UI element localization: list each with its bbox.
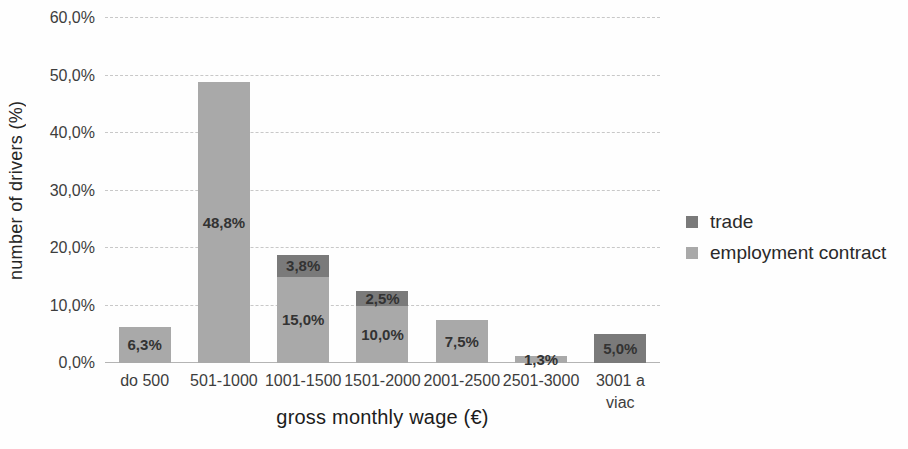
- x-tick-label: 2001-2500: [422, 370, 501, 392]
- bar-segment-employment: 6,3%: [119, 327, 171, 363]
- y-tick-label: 20,0%: [50, 240, 95, 256]
- y-axis-tick-labels: 0,0%10,0%20,0%30,0%40,0%50,0%60,0%: [0, 18, 95, 363]
- bar-segment-employment: 1,3%: [515, 356, 567, 363]
- legend-item: trade: [686, 212, 886, 231]
- x-tick-label: 1001-1500: [264, 370, 343, 392]
- bar-slot: 1,3%: [501, 18, 580, 363]
- legend-swatch-trade: [686, 216, 698, 228]
- bar-segment-trade: 5,0%: [594, 334, 646, 363]
- bar-slot: 10,0%2,5%: [343, 18, 422, 363]
- bar-value-label: 15,0%: [282, 312, 325, 327]
- bar-value-label: 5,0%: [603, 341, 637, 356]
- bar-slot: 7,5%: [422, 18, 501, 363]
- legend-item: employment contract: [686, 243, 886, 262]
- y-tick-label: 10,0%: [50, 298, 95, 314]
- y-tick-label: 40,0%: [50, 125, 95, 141]
- y-tick-label: 60,0%: [50, 10, 95, 26]
- bar-value-label: 10,0%: [361, 327, 404, 342]
- bar-segment-employment: 10,0%: [356, 306, 408, 364]
- y-tick-label: 50,0%: [50, 68, 95, 84]
- bar-segment-employment: 15,0%: [277, 277, 329, 363]
- bar-slot: 15,0%3,8%: [264, 18, 343, 363]
- bar-value-label: 1,3%: [524, 352, 558, 367]
- bar-segment-trade: 3,8%: [277, 255, 329, 277]
- x-axis-tick-labels: do 500501-10001001-15001501-20002001-250…: [105, 370, 660, 406]
- bar-slot: 48,8%: [184, 18, 263, 363]
- bar-value-label: 7,5%: [445, 334, 479, 349]
- bar-value-label: 48,8%: [203, 215, 246, 230]
- x-tick-label: 1501-2000: [343, 370, 422, 392]
- legend: tradeemployment contract: [686, 212, 886, 262]
- y-tick-label: 30,0%: [50, 183, 95, 199]
- x-tick-label: 501-1000: [184, 370, 263, 392]
- legend-label: trade: [710, 212, 753, 231]
- bar-value-label: 6,3%: [128, 337, 162, 352]
- bar-segment-employment: 7,5%: [436, 320, 488, 363]
- y-tick-label: 0,0%: [59, 355, 95, 371]
- x-tick-label: 2501-3000: [501, 370, 580, 392]
- x-axis-title: gross monthly wage (€): [105, 406, 660, 429]
- bar-segment-trade: 2,5%: [356, 291, 408, 305]
- x-tick-label: do 500: [105, 370, 184, 392]
- bar-slot: 5,0%: [581, 18, 660, 363]
- bar-segment-employment: 48,8%: [198, 82, 250, 363]
- plot-area: 6,3%48,8%15,0%3,8%10,0%2,5%7,5%1,3%5,0%: [105, 18, 660, 363]
- legend-swatch-employment: [686, 247, 698, 259]
- bar-value-label: 2,5%: [365, 291, 399, 306]
- legend-label: employment contract: [710, 243, 886, 262]
- bar-value-label: 3,8%: [286, 258, 320, 273]
- bar-slot: 6,3%: [105, 18, 184, 363]
- stacked-bar-chart-figure: number of drivers (%) 0,0%10,0%20,0%30,0…: [0, 0, 908, 449]
